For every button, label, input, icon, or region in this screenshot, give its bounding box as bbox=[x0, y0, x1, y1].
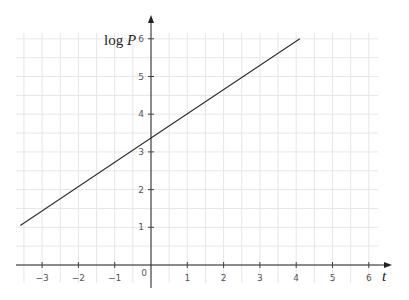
x-tick-label: 2 bbox=[221, 273, 227, 283]
grid bbox=[16, 33, 378, 283]
data-series bbox=[20, 39, 300, 226]
x-axis-title: t bbox=[382, 268, 387, 284]
x-tick-label: 4 bbox=[293, 273, 299, 283]
y-tick-label: 2 bbox=[138, 185, 144, 195]
y-tick-label: 4 bbox=[138, 109, 144, 119]
ticks: −3−2−10123456123456 bbox=[35, 34, 371, 283]
y-tick-label: 6 bbox=[138, 34, 144, 44]
y-tick-label: 3 bbox=[138, 147, 144, 157]
line-chart: −3−2−10123456123456 log P t bbox=[0, 0, 409, 300]
y-tick-label: 5 bbox=[138, 72, 144, 82]
x-tick-label: −3 bbox=[35, 273, 48, 283]
x-tick-label: 1 bbox=[184, 273, 190, 283]
y-axis-arrow-icon bbox=[148, 15, 154, 23]
x-tick-label: −1 bbox=[108, 273, 121, 283]
x-tick-label: −2 bbox=[72, 273, 85, 283]
x-tick-label: 5 bbox=[330, 273, 336, 283]
x-tick-label: 3 bbox=[257, 273, 263, 283]
series-line bbox=[20, 39, 300, 226]
x-tick-label: 6 bbox=[366, 273, 372, 283]
x-tick-label: 0 bbox=[141, 268, 147, 278]
y-tick-label: 1 bbox=[138, 222, 144, 232]
y-axis-title: log P bbox=[104, 32, 136, 48]
